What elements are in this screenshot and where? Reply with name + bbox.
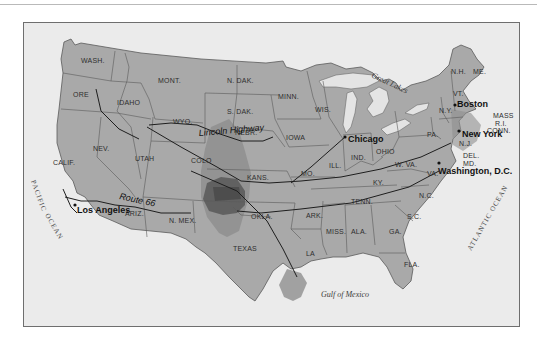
label-ny: N.Y.	[439, 107, 453, 114]
label-ga: GA.	[389, 228, 402, 235]
label-ndak: N. DAK.	[227, 77, 254, 84]
label-idaho: IDAHO	[117, 99, 141, 106]
label-gulf-of-mexico: Gulf of Mexico	[321, 290, 369, 299]
label-pacific: PACIFIC	[29, 179, 48, 213]
label-calif: CALIF.	[53, 159, 75, 166]
label-ocean: OCEAN	[43, 212, 64, 241]
label-nmex: N. MEX.	[169, 217, 196, 224]
label-ind: IND.	[351, 154, 366, 161]
label-mont: MONT.	[158, 77, 181, 84]
label-fla: FLA.	[404, 261, 420, 268]
label-chicago: Chicago	[348, 134, 384, 144]
label-nj: N.J.	[459, 140, 472, 147]
label-new-york: New York	[462, 129, 503, 139]
label-va: VA.	[427, 170, 438, 177]
top-rule	[0, 4, 537, 5]
label-okla: OKLA.	[251, 213, 273, 220]
chicago-marker	[343, 135, 346, 138]
label-ky: KY.	[373, 179, 384, 186]
label-nh: N.H.	[451, 68, 466, 75]
new-york-marker	[457, 129, 460, 132]
label-sc: S.C.	[407, 213, 421, 220]
label-wva: W. VA.	[395, 161, 417, 168]
label-nc: N.C.	[419, 192, 434, 199]
label-wyo: WYO.	[173, 118, 192, 125]
us-map: WASH. ORE IDAHO MONT. WYO. CALIF. NEV. U…	[24, 23, 519, 326]
label-texas: TEXAS	[233, 245, 257, 252]
label-kans: KANS.	[247, 174, 269, 181]
label-pa: PA.	[427, 131, 438, 138]
label-boston: Boston	[457, 99, 488, 109]
label-atlantic-ocean: ATLANTIC OCEAN	[466, 184, 510, 252]
label-la: LA	[306, 250, 315, 257]
label-ore: ORE	[73, 91, 89, 98]
route-la-coast	[63, 189, 77, 213]
label-utah: UTAH	[135, 155, 154, 162]
washington-marker	[437, 161, 440, 164]
label-ri: R.I.	[495, 120, 507, 127]
label-ill: ILL.	[329, 162, 341, 169]
label-nev: NEV.	[93, 145, 110, 152]
label-iowa: IOWA	[286, 134, 305, 141]
label-wis: WIS.	[315, 106, 331, 113]
label-del: DEL.	[463, 152, 479, 159]
label-mass: MASS	[493, 112, 514, 119]
label-vt: VT.	[453, 90, 464, 97]
label-sdak: S. DAK.	[227, 108, 253, 115]
us-landmass	[57, 39, 484, 301]
label-wash: WASH.	[81, 57, 105, 64]
label-los-angeles: Los Angeles	[77, 205, 130, 215]
label-ala: ALA.	[351, 228, 367, 235]
label-miss: MISS.	[326, 228, 346, 235]
label-colo: COLO	[191, 157, 212, 164]
label-mo: MO.	[301, 170, 315, 177]
label-ark: ARK.	[306, 212, 323, 219]
label-minn: MINN.	[278, 93, 299, 100]
gulf-shading	[279, 269, 307, 301]
map-frame: WASH. ORE IDAHO MONT. WYO. CALIF. NEV. U…	[23, 22, 520, 327]
label-tenn: TENN.	[351, 198, 373, 205]
label-ohio: OHIO	[376, 148, 395, 155]
label-washington: Washington, D.C.	[438, 166, 512, 176]
label-me: ME.	[473, 68, 486, 75]
